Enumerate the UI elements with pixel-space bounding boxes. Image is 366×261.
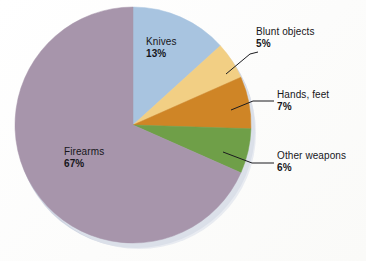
slice-label-blunt-objects-percent: 5%	[256, 38, 315, 50]
slice-label-hands-feet: Hands, feet 7%	[277, 89, 329, 112]
slice-label-knives: Knives 13%	[146, 36, 177, 59]
slice-label-blunt-objects: Blunt objects 5%	[256, 26, 315, 49]
slice-label-blunt-objects-name: Blunt objects	[256, 26, 315, 38]
slice-label-knives-percent: 13%	[146, 48, 177, 60]
pie-chart-figure: Knives 13% Firearms 67% Blunt objects 5%…	[0, 0, 366, 261]
slice-label-other-weapons-name: Other weapons	[277, 150, 346, 162]
slice-label-firearms-name: Firearms	[64, 146, 104, 158]
slice-label-firearms: Firearms 67%	[64, 146, 104, 169]
slice-label-hands-feet-percent: 7%	[277, 101, 329, 113]
slice-label-firearms-percent: 67%	[64, 158, 104, 170]
slice-label-knives-name: Knives	[146, 36, 177, 48]
slice-label-other-weapons: Other weapons 6%	[277, 150, 346, 173]
slice-label-hands-feet-name: Hands, feet	[277, 89, 329, 101]
slice-label-other-weapons-percent: 6%	[277, 162, 346, 174]
